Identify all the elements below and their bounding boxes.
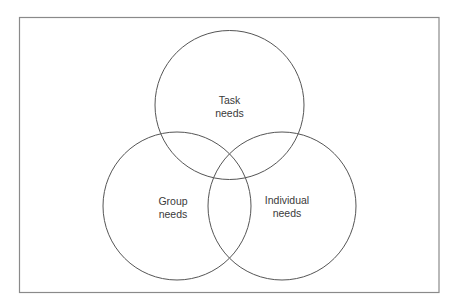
individual-needs-label-line2: needs [273,207,302,219]
group-needs-label-line2: needs [159,208,188,220]
venn-diagram: Task needs Group needs Individual needs [0,0,456,306]
individual-needs-label-line1: Individual [265,194,309,206]
group-needs-label-line1: Group [158,195,187,207]
task-needs-label-line2: needs [215,107,244,119]
task-needs-label-line1: Task [219,94,241,106]
diagram-frame [20,18,440,293]
